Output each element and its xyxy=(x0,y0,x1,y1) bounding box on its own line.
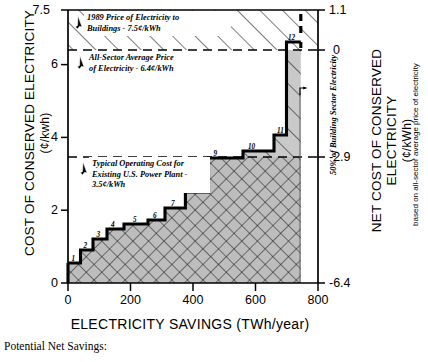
annotation-operating-cost-line2: Existing U.S. Power Plant - xyxy=(92,170,187,179)
y-axis-left-title: COST OF CONSERVED ELECTRICITY (¢/kwh) xyxy=(22,8,52,258)
figure-caption: Potential Net Savings: xyxy=(4,340,107,352)
y-axis-right-note: based on all-sector average price of ele… xyxy=(411,40,420,250)
y-axis-right-title-text: NET COST OF CONSERVED ELECTRICITY xyxy=(369,49,399,232)
step-label-12: 12 xyxy=(288,34,296,42)
annotation-price-to-buildings-line2: Buildings - 7.5¢/kWh xyxy=(87,24,161,33)
xtick-200: 200 xyxy=(111,293,151,307)
annotation-operating-cost-line1: Typical Operating Cost for xyxy=(92,159,184,168)
xtick-800: 800 xyxy=(298,293,338,307)
annotation-price-to-buildings-line1: 1989 Price of Electricity to xyxy=(87,13,179,22)
step-label-2: 2 xyxy=(83,242,88,250)
step-label-7: 7 xyxy=(171,200,175,208)
y-axis-right-title: NET COST OF CONSERVED ELECTRICITY (¢/kWh… xyxy=(369,16,414,266)
step-label-10: 10 xyxy=(248,143,256,151)
y-axis-right-ticks xyxy=(318,10,325,283)
marker-50pct-label: 50% of Building Sector Electricity xyxy=(328,30,338,200)
xtick-0: 0 xyxy=(48,293,88,307)
step-label-1: 1 xyxy=(72,255,76,263)
step-label-4: 4 xyxy=(110,221,115,229)
y-axis-left-title-text: COST OF CONSERVED ELECTRICITY xyxy=(22,10,37,256)
annotation-operating-cost-line3: 3.5¢/kWh xyxy=(92,180,125,189)
annotation-all-sector-price-line1: All-Sector Average Price xyxy=(89,53,174,62)
ytick-right-neg64: -6.4 xyxy=(329,276,363,290)
ytick-right-11: 1.1 xyxy=(329,3,363,17)
y-axis-left-ticks xyxy=(61,10,68,283)
x-axis-ticks xyxy=(68,283,318,291)
xtick-400: 400 xyxy=(173,293,213,307)
annotation-all-sector-price: All-Sector Average Price of Electricity … xyxy=(86,51,218,76)
step-label-11: 11 xyxy=(277,127,284,135)
annotation-price-to-buildings: 1989 Price of Electricity to Buildings -… xyxy=(84,11,231,36)
ytick-right-0: 0 xyxy=(333,43,367,57)
x-axis-title: ELECTRICITY SAVINGS (TWh/year) xyxy=(40,316,340,332)
step-label-3: 3 xyxy=(96,231,101,239)
annotation-all-sector-price-line2: of Electricity - 6.4¢/kWh xyxy=(89,64,174,73)
xtick-600: 600 xyxy=(236,293,276,307)
step-label-9: 9 xyxy=(214,150,218,158)
ytick-left-0: 0 xyxy=(28,276,58,290)
annotation-operating-cost: Typical Operating Cost for Existing U.S.… xyxy=(89,157,210,193)
step-label-5: 5 xyxy=(133,216,137,224)
y-axis-left-title-unit: (¢/kwh) xyxy=(38,8,52,258)
step-label-6: 6 xyxy=(153,212,157,220)
